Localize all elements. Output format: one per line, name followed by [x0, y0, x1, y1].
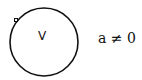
condition-label: a ≠ 0 [98, 30, 136, 46]
region-label: V [38, 29, 46, 43]
boundary-point-marker [15, 19, 18, 22]
